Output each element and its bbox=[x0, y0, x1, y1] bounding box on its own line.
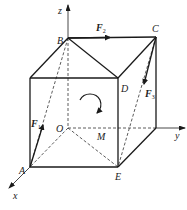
force-F3-label: F3 bbox=[144, 88, 155, 100]
force-F2-arrow bbox=[68, 38, 110, 39]
force-F1-label: F1 bbox=[30, 118, 41, 130]
x-axis-label: x bbox=[12, 190, 18, 201]
point-C-label: C bbox=[152, 23, 159, 34]
force-F2-label: F2 bbox=[95, 22, 106, 34]
diag-O-E bbox=[68, 128, 118, 167]
point-E-label: E bbox=[114, 171, 121, 182]
point-M-label: M bbox=[96, 131, 106, 142]
z-axis-label: z bbox=[57, 5, 62, 16]
point-O-label: O bbox=[56, 123, 63, 134]
rotation-arrow-icon bbox=[80, 94, 101, 113]
point-A-label: A bbox=[18, 165, 26, 176]
cube-diagram: z y x B C D O M A E F2 F3 F1 bbox=[0, 0, 187, 210]
point-D-label: D bbox=[120, 83, 129, 94]
point-B-label: B bbox=[57, 35, 63, 46]
y-axis-label: y bbox=[174, 130, 180, 141]
edge-B-D bbox=[68, 38, 118, 78]
